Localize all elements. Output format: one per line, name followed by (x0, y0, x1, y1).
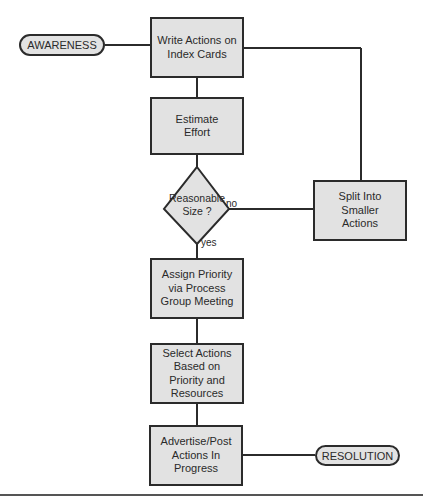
step-label: Select Actions Based on Priority and Res… (160, 347, 234, 401)
resolution-label: RESOLUTION (322, 450, 394, 462)
step-split-actions: Split Into Smaller Actions (313, 180, 407, 241)
step-label: Assign Priority via Process Group Meetin… (160, 268, 234, 309)
step-label: Split Into Smaller Actions (335, 190, 385, 231)
step-advertise-post: Advertise/Post Actions In Progress (149, 425, 243, 486)
awareness-label: AWARENESS (27, 39, 96, 51)
bottom-divider (0, 494, 423, 496)
decision-yes-label: yes (201, 237, 217, 248)
step-label: Write Actions on Index Cards (154, 34, 240, 61)
step-estimate-effort: Estimate Effort (150, 97, 244, 155)
resolution-terminal: RESOLUTION (315, 445, 400, 466)
step-label: Estimate Effort (176, 113, 219, 140)
step-select-actions: Select Actions Based on Priority and Res… (150, 343, 244, 404)
awareness-terminal: AWARENESS (19, 34, 105, 56)
decision-label: Reasonable Size ? (164, 192, 230, 217)
step-write-actions: Write Actions on Index Cards (150, 17, 244, 78)
decision-no-label: no (226, 198, 237, 209)
step-assign-priority: Assign Priority via Process Group Meetin… (150, 258, 244, 319)
step-label: Advertise/Post Actions In Progress (147, 435, 246, 476)
